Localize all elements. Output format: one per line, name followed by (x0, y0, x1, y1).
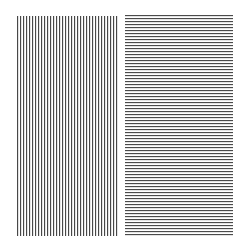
horizontal-grating-panel (125, 15, 233, 236)
vertical-grating-panel (17, 16, 119, 236)
